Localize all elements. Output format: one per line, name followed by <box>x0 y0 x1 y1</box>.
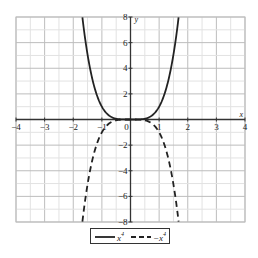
y-tick-label: −4 <box>118 166 128 176</box>
legend-label-x4: x4 <box>116 231 124 243</box>
legend: x4 −x4 <box>90 228 170 244</box>
x-tick-label: −3 <box>40 122 50 132</box>
y-tick-label: 6 <box>123 38 128 48</box>
x-tick-label: 4 <box>243 122 248 132</box>
y-tick-label: 8 <box>123 12 128 22</box>
x-tick-label: −2 <box>68 122 78 132</box>
function-plot: −4−3−2−101234−8−6−4−22468xy <box>0 0 258 258</box>
legend-label-neg-x4: −x4 <box>153 231 166 243</box>
y-tick-label: −6 <box>118 191 128 201</box>
x-tick-label: −4 <box>11 122 21 132</box>
y-tick-label: −2 <box>118 140 128 150</box>
x-tick-label: 1 <box>157 122 162 132</box>
x-tick-label: 3 <box>214 122 219 132</box>
y-tick-label: 4 <box>123 63 128 73</box>
y-tick-label: −8 <box>118 217 128 227</box>
y-tick-label: 2 <box>123 89 128 99</box>
x-tick-label: 0 <box>124 122 129 132</box>
x-tick-label: −1 <box>97 122 107 132</box>
legend-content: x4 −x4 <box>91 229 171 245</box>
x-axis-label: x <box>238 110 243 119</box>
y-axis-label: y <box>134 15 139 24</box>
x-tick-label: 2 <box>186 122 191 132</box>
